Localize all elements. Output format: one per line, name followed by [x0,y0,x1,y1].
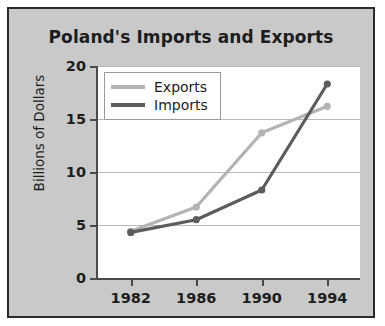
legend-label: Imports [154,97,208,113]
x-tick-mark [262,279,264,286]
y-tick-label: 15 [66,111,86,127]
x-tick-mark [327,279,329,286]
legend-label: Exports [154,79,207,95]
x-tick-label: 1994 [307,290,347,306]
data-point-marker [193,216,200,223]
y-tick-label: 5 [76,217,86,233]
chart-figure: Poland's Imports and Exports Billions of… [7,7,375,318]
x-tick-mark [131,279,133,286]
legend-item: Exports [111,78,208,96]
series-line [131,106,328,231]
data-point-marker [258,186,265,193]
data-point-marker [324,103,331,110]
plot-area: 05101520 1982198619901994 ExportsImports [96,66,360,280]
y-tick-mark [90,278,96,280]
data-point-marker [324,80,331,87]
legend-item: Imports [111,96,208,114]
y-tick-mark [90,225,96,227]
data-point-marker [127,229,134,236]
y-tick-label: 10 [66,164,86,180]
x-tick-mark [196,279,198,286]
chart-title: Poland's Imports and Exports [9,27,373,47]
y-tick-mark [90,66,96,68]
data-point-marker [193,203,200,210]
legend-swatch-icon [111,85,145,89]
x-tick-label: 1982 [111,290,151,306]
y-axis-title: Billions of Dollars [31,33,47,233]
y-tick-label: 0 [76,270,86,286]
chart-legend: ExportsImports [104,72,221,120]
data-point-marker [258,129,265,136]
legend-swatch-icon [111,103,145,107]
y-tick-label: 20 [66,58,86,74]
x-tick-label: 1990 [242,290,282,306]
x-tick-label: 1986 [176,290,216,306]
y-tick-mark [90,172,96,174]
y-tick-mark [90,119,96,121]
